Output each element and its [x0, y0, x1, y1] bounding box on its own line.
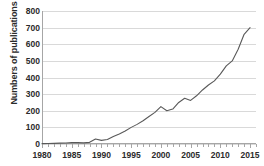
- series-line-group: [0, 0, 264, 166]
- series-line-publications: [42, 28, 250, 144]
- publications-line-chart: Numbers of publications 0100200300400500…: [0, 0, 264, 166]
